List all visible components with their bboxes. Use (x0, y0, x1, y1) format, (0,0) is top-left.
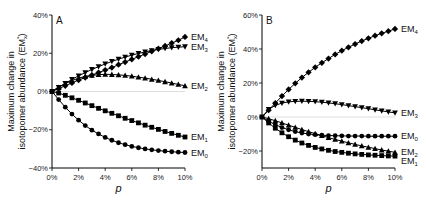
square-marker (313, 145, 318, 150)
x-tick-label: 10% (387, 173, 402, 182)
circle-marker (156, 148, 161, 153)
series-label-em3: EM3 (401, 108, 419, 119)
square-marker (366, 153, 371, 158)
series-label-em0: EM0 (401, 131, 419, 142)
diamond-marker (345, 44, 351, 50)
square-marker (176, 133, 181, 138)
circle-marker (176, 150, 181, 155)
square-marker (339, 150, 344, 155)
x-tick-label: 4% (310, 173, 321, 182)
square-marker (319, 147, 324, 152)
origin-marker (50, 89, 55, 94)
square-marker (109, 111, 114, 116)
diamond-marker (359, 38, 365, 44)
x-tick-label: 2% (73, 173, 84, 182)
series-em3: EM3 (262, 99, 419, 119)
x-tick-label: 0% (47, 173, 58, 182)
x-tick-label: 6% (126, 173, 137, 182)
x-tick-label: 10% (177, 173, 192, 182)
x-axis-label: p (114, 182, 121, 194)
x-tick-label: 0% (257, 173, 268, 182)
circle-marker (143, 146, 148, 151)
square-marker (96, 106, 101, 111)
circle-marker (63, 105, 68, 110)
diamond-marker (339, 48, 345, 54)
panel-label: B (266, 15, 273, 26)
circle-marker (386, 134, 391, 139)
series-label-em2: EM2 (191, 81, 209, 92)
y-tick-label: 60% (243, 11, 258, 20)
square-marker (76, 98, 81, 103)
circle-marker (163, 149, 168, 154)
diamond-marker (325, 55, 331, 61)
y-tick-label: 0% (37, 87, 48, 96)
circle-marker (136, 145, 141, 150)
x-tick-label: 6% (336, 173, 347, 182)
square-marker (129, 118, 134, 123)
series-label-em1: EM1 (191, 132, 209, 143)
square-marker (333, 149, 338, 154)
circle-marker (393, 134, 398, 139)
circle-marker (339, 133, 344, 138)
panel-label: A (56, 15, 63, 26)
y-tick-label: 40% (33, 11, 48, 20)
y-tick-label: 20% (243, 79, 258, 88)
square-marker (273, 126, 278, 131)
x-tick-label: 2% (283, 173, 294, 182)
diamond-marker (109, 64, 115, 70)
circle-marker (183, 150, 188, 155)
square-marker (163, 129, 168, 134)
series-label-em0: EM0 (191, 148, 209, 159)
square-marker (143, 123, 148, 128)
circle-marker (359, 134, 364, 139)
circle-marker (379, 134, 384, 139)
triangle-down-marker (102, 62, 108, 67)
square-marker (266, 121, 271, 126)
y-tick-label: −20% (29, 125, 49, 134)
diamond-marker (175, 37, 181, 43)
diamond-marker (115, 62, 121, 68)
square-marker (149, 125, 154, 130)
circle-marker (373, 134, 378, 139)
circle-marker (56, 97, 61, 102)
circle-marker (129, 144, 134, 149)
circle-marker (96, 132, 101, 137)
square-marker (386, 154, 391, 159)
circle-marker (280, 125, 285, 130)
square-marker (70, 95, 75, 100)
square-marker (326, 148, 331, 153)
y-tick-label: 0% (247, 113, 258, 122)
square-marker (293, 138, 298, 143)
square-marker (300, 141, 305, 146)
circle-marker (109, 138, 114, 143)
square-marker (280, 130, 285, 135)
circle-marker (149, 147, 154, 152)
square-marker (136, 120, 141, 125)
square-marker (306, 143, 311, 148)
circle-marker (76, 118, 81, 123)
circle-marker (353, 134, 358, 139)
diamond-marker (169, 40, 175, 46)
series-em0: EM0 (52, 92, 209, 159)
diamond-marker (379, 30, 385, 36)
x-tick-label: 8% (363, 173, 374, 182)
triangle-down-marker (392, 111, 398, 116)
series-label-em4: EM4 (401, 24, 419, 35)
y-axis-label: Maximum change inisotopomer abundance (E… (6, 34, 28, 150)
square-marker (353, 151, 358, 156)
square-marker (116, 113, 121, 118)
circle-marker (70, 112, 75, 117)
square-marker (90, 103, 95, 108)
y-tick-label: −20% (239, 147, 259, 156)
circle-marker (90, 128, 95, 133)
square-marker (379, 153, 384, 158)
square-marker (346, 151, 351, 156)
y-tick-label: 20% (33, 49, 48, 58)
circle-marker (293, 129, 298, 134)
panel-B: −20%0%20%40%60%0%2%4%6%8%10%pMaximum cha… (216, 11, 419, 195)
square-marker (359, 152, 364, 157)
diamond-marker (392, 26, 398, 32)
y-axis-label: Maximum change inisotopomer abundance (E… (216, 34, 238, 150)
circle-marker (83, 123, 88, 128)
triangle-down-marker (96, 64, 102, 69)
